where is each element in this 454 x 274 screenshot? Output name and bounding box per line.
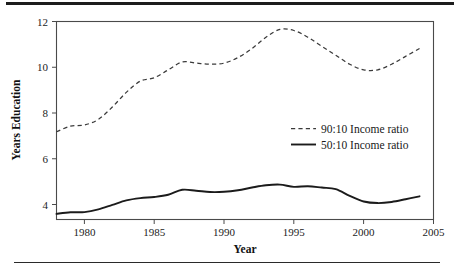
legend-label-50-10: 50:10 Income ratio [321,139,409,151]
legend-label-90-10: 90:10 Income ratio [321,123,409,135]
series-line-90-10 [57,29,420,132]
x-tick-label: 2005 [423,226,446,238]
series-line-50-10 [57,185,420,214]
y-tick-label: 6 [43,153,49,165]
legend: 90:10 Income ratio 50:10 Income ratio [291,123,409,151]
x-tick-label: 1990 [213,226,236,238]
chart-canvas: 12 10 8 6 4 1980 1985 1990 1995 2000 200… [0,0,454,274]
x-axis-title: Year [234,243,257,255]
y-axis-ticks [52,22,57,205]
y-tick-label: 4 [43,199,49,211]
y-tick-label: 8 [43,107,49,119]
figure-container: 12 10 8 6 4 1980 1985 1990 1995 2000 200… [0,0,454,274]
x-tick-label: 1995 [283,226,306,238]
x-axis-ticks [84,220,433,225]
x-tick-label: 1980 [73,226,96,238]
y-tick-label: 12 [37,16,48,28]
x-tick-label: 1985 [143,226,166,238]
y-axis-title: Years Education [10,79,22,160]
y-axis-tick-labels: 12 10 8 6 4 [37,16,49,211]
y-tick-label: 10 [37,61,49,73]
x-axis-tick-labels: 1980 1985 1990 1995 2000 2005 [73,226,445,238]
x-tick-label: 2000 [353,226,376,238]
